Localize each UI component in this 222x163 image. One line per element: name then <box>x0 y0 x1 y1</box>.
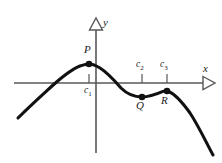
label-c1-subscript: 1 <box>88 90 92 98</box>
label-point-P: P <box>84 44 91 55</box>
x-axis-arrowhead-icon <box>203 77 215 90</box>
y-axis-arrowhead-icon <box>90 18 103 30</box>
label-c1: c1 <box>84 86 92 98</box>
graph-canvas <box>0 0 222 163</box>
label-point-Q: Q <box>136 100 144 111</box>
label-c3-subscript: 3 <box>164 64 168 72</box>
point-P <box>86 61 93 68</box>
label-c2: c2 <box>136 60 144 72</box>
label-c3: c3 <box>160 60 168 72</box>
label-x-axis: x <box>203 63 208 74</box>
label-point-R: R <box>161 95 168 106</box>
label-y-axis: y <box>103 17 108 28</box>
math-graph-figure: P Q R y x c1 c2 c3 <box>0 0 222 163</box>
function-curve <box>18 64 213 155</box>
label-c2-subscript: 2 <box>140 64 144 72</box>
